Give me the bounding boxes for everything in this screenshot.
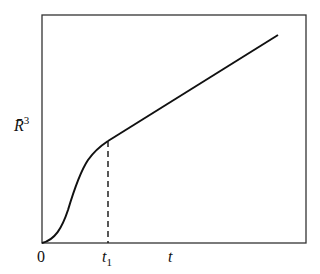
origin-label: 0 — [37, 248, 45, 265]
linear-segment — [108, 35, 278, 141]
sigmoid-curve — [42, 141, 108, 243]
y-axis-label: R̄3 — [13, 114, 30, 134]
x-axis-label: t — [168, 248, 173, 265]
plot-frame — [42, 15, 306, 243]
chart: R̄3 0 t1 t — [0, 0, 320, 274]
t1-label: t1 — [102, 248, 112, 268]
